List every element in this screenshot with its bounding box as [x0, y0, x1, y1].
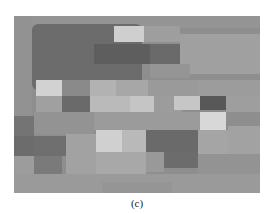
mosaic-block: [66, 134, 96, 174]
mosaic-block: [148, 80, 198, 96]
mosaic-block: [14, 16, 32, 116]
mosaic-block: [36, 80, 62, 96]
mosaic-block: [122, 130, 146, 152]
mosaic-block: [14, 116, 34, 136]
mosaic-block: [200, 96, 226, 110]
mosaic-block: [198, 130, 228, 154]
mosaic-block: [164, 152, 198, 168]
mosaic-block: [14, 156, 34, 176]
mosaic-block: [144, 26, 180, 42]
mosaic-block: [34, 136, 66, 156]
mosaic-block: [94, 112, 200, 130]
mosaic-block: [94, 44, 150, 64]
mosaic-block: [180, 34, 260, 74]
figure-caption: (c): [0, 197, 274, 209]
mosaic-block: [116, 80, 148, 96]
mosaic-block: [114, 26, 144, 42]
mosaic-block: [228, 126, 260, 156]
mosaic-block: [146, 130, 198, 152]
mosaic-block: [96, 152, 146, 174]
mosaic-block: [150, 44, 180, 64]
mosaic-block: [90, 96, 130, 112]
mosaic-block: [34, 156, 62, 176]
mosaic-block: [174, 96, 200, 110]
mosaic-block: [198, 154, 260, 176]
mosaic-block: [90, 80, 116, 96]
mosaic-block: [62, 80, 90, 96]
mosaic-block: [146, 152, 164, 172]
mosaic-block: [198, 80, 260, 96]
mosaic-block: [200, 112, 226, 130]
mosaic-block: [62, 96, 90, 112]
mosaic-block: [96, 130, 122, 152]
mosaic-block: [150, 64, 190, 78]
mosaic-block: [34, 112, 94, 134]
mosaic-block: [130, 96, 154, 112]
mosaic-block: [36, 96, 62, 112]
mosaic-block: [102, 182, 172, 193]
mosaic-figure: [14, 16, 260, 193]
mosaic-block: [14, 136, 34, 156]
mosaic-block: [226, 96, 260, 112]
